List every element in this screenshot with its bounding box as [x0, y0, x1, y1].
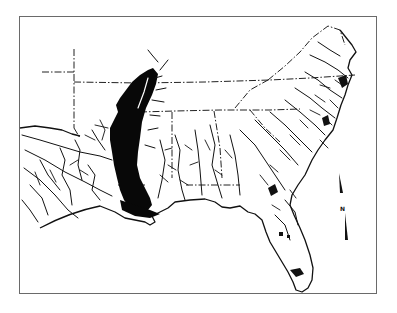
rivers-central	[145, 50, 240, 200]
florida-features	[272, 190, 304, 277]
state-borders	[42, 26, 355, 185]
map-canvas	[0, 0, 397, 313]
coastline	[20, 30, 356, 292]
north-arrow-label: N	[340, 205, 345, 212]
mississippi-valley	[110, 68, 160, 218]
rivers-east	[240, 42, 348, 196]
